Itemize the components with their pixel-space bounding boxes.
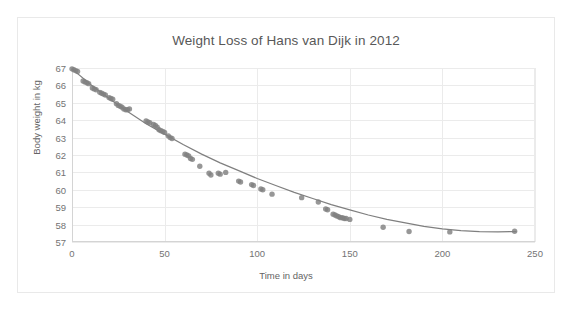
data-point xyxy=(197,164,202,169)
chart-title: Weight Loss of Hans van Dijk in 2012 xyxy=(18,33,554,48)
gridline-vertical xyxy=(535,68,536,242)
y-axis-tick-label: 59 xyxy=(55,202,66,213)
data-point xyxy=(251,183,256,188)
x-axis-tick-label: 50 xyxy=(159,248,170,259)
data-point xyxy=(110,97,115,102)
y-axis-label: Body weight in kg xyxy=(31,58,42,178)
data-point xyxy=(217,171,222,176)
y-axis-tick-label: 63 xyxy=(55,132,66,143)
data-point xyxy=(447,229,452,234)
y-axis-tick-label: 64 xyxy=(55,115,66,126)
data-point xyxy=(316,199,321,204)
y-axis-tick-label: 65 xyxy=(55,97,66,108)
x-axis-tick-label: 200 xyxy=(434,248,450,259)
data-point xyxy=(347,217,352,222)
scatter-markers xyxy=(69,66,517,234)
chart-figure: Weight Loss of Hans van Dijk in 2012 Bod… xyxy=(17,17,555,293)
trendline xyxy=(72,69,516,232)
data-point xyxy=(169,136,174,141)
data-point xyxy=(380,225,385,230)
data-layer xyxy=(72,68,535,242)
data-point xyxy=(512,229,517,234)
data-point xyxy=(208,172,213,177)
gridline-horizontal xyxy=(72,242,535,243)
x-axis-tick-label: 0 xyxy=(69,248,74,259)
data-point xyxy=(299,195,304,200)
y-axis-tick-label: 67 xyxy=(55,63,66,74)
y-axis-tick-label: 61 xyxy=(55,167,66,178)
x-axis-tick-label: 250 xyxy=(527,248,543,259)
y-axis-tick-label: 60 xyxy=(55,184,66,195)
plot-area: 5758596061626364656667 050100150200250 xyxy=(72,68,535,242)
x-axis-tick-label: 150 xyxy=(342,248,358,259)
data-point xyxy=(260,187,265,192)
data-point xyxy=(269,191,274,196)
data-point xyxy=(86,81,91,86)
data-point xyxy=(127,106,132,111)
x-axis-tick-label: 100 xyxy=(249,248,265,259)
data-point xyxy=(238,179,243,184)
y-axis-tick-label: 58 xyxy=(55,219,66,230)
data-point xyxy=(223,170,228,175)
data-point xyxy=(190,157,195,162)
data-point xyxy=(325,207,330,212)
x-axis-label: Time in days xyxy=(18,270,554,281)
y-axis-tick-label: 57 xyxy=(55,237,66,248)
data-point xyxy=(75,69,80,74)
y-axis-tick-label: 66 xyxy=(55,80,66,91)
y-axis-tick-label: 62 xyxy=(55,150,66,161)
data-point xyxy=(406,229,411,234)
